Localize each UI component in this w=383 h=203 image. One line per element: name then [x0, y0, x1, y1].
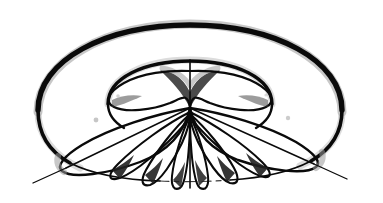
speckle-right — [286, 116, 290, 120]
speckle-upper-left — [116, 94, 120, 98]
figure-container: Three-dimensional multi-lobe radiation p… — [0, 0, 383, 203]
speckle-upper-right — [264, 93, 267, 96]
radiation-pattern-drawing: Three-dimensional multi-lobe radiation p… — [0, 0, 383, 203]
speckle-left — [94, 118, 99, 123]
